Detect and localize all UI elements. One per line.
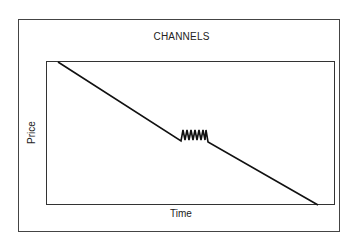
- price-line: [58, 62, 318, 205]
- x-axis-label: Time: [170, 208, 192, 219]
- y-axis-label: Price: [26, 121, 37, 144]
